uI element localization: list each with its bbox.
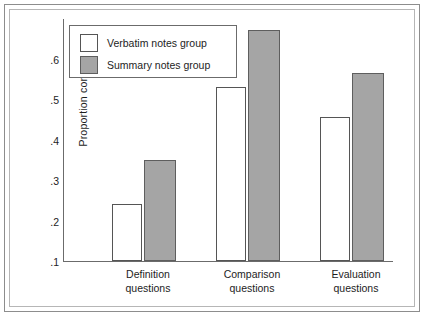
x-label-definition-line2: questions (98, 282, 198, 296)
bar-definition-verbatim[interactable] (112, 204, 142, 261)
x-label-evaluation: Evaluation questions (306, 268, 406, 295)
bar-evaluation-verbatim[interactable] (320, 117, 350, 261)
x-label-definition: Definition questions (98, 268, 198, 295)
x-label-comparison-line1: Comparison (202, 268, 302, 282)
y-tick-3: .4 (50, 135, 59, 147)
x-label-comparison: Comparison questions (202, 268, 302, 295)
x-label-evaluation-line2: questions (306, 282, 406, 296)
legend: Verbatim notes group Summary notes group (69, 25, 237, 78)
y-tick-4: .5 (50, 94, 59, 106)
y-tick-2: .3 (50, 175, 59, 187)
y-tick-0: .1 (50, 256, 59, 268)
y-tick-5: .6 (50, 54, 59, 66)
x-label-evaluation-line1: Evaluation (306, 268, 406, 282)
legend-item-verbatim[interactable]: Verbatim notes group (80, 32, 236, 54)
legend-item-summary[interactable]: Summary notes group (80, 54, 236, 76)
legend-swatch-verbatim (80, 34, 98, 52)
legend-label-verbatim: Verbatim notes group (107, 37, 207, 49)
chart-page: Proportion correct .1 .2 .3 .4 .5 .6 Def… (0, 0, 426, 319)
bar-comparison-verbatim[interactable] (216, 87, 246, 261)
legend-label-summary: Summary notes group (107, 59, 210, 71)
y-tick-1: .2 (50, 216, 59, 228)
bar-definition-summary[interactable] (144, 160, 176, 261)
bar-group-evaluation (320, 19, 392, 261)
x-label-definition-line1: Definition (98, 268, 198, 282)
legend-swatch-summary (80, 56, 98, 74)
bar-evaluation-summary[interactable] (352, 73, 384, 261)
x-label-comparison-line2: questions (202, 282, 302, 296)
bar-comparison-summary[interactable] (248, 30, 280, 261)
